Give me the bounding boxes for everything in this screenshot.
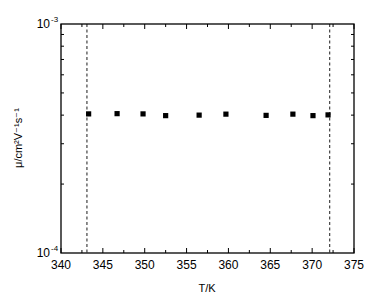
data-point-square (264, 113, 269, 118)
data-point-square (325, 112, 330, 117)
data-point-square (197, 113, 202, 118)
x-tick-label: 340 (51, 258, 71, 272)
plot-frame (61, 24, 354, 253)
data-point-square (223, 112, 228, 117)
data-point-square (114, 111, 119, 116)
y-axis-label: μ/cm²V⁻¹s⁻¹ (12, 108, 24, 168)
data-point-square (163, 113, 168, 118)
y-tick-labels: 10-410-3 (37, 15, 59, 260)
data-point-square (290, 112, 295, 117)
data-point-square (140, 111, 145, 116)
y-axis-ticks (61, 34, 354, 184)
mobility-vs-temperature-chart: 340345350355360365370375 10-410-3 T/K μ/… (0, 0, 382, 300)
x-tick-labels: 340345350355360365370375 (51, 258, 364, 272)
x-tick-label: 360 (218, 258, 238, 272)
x-tick-label: 355 (177, 258, 197, 272)
y-tick-label-exponent: -4 (51, 244, 59, 253)
plot-border (61, 24, 354, 253)
dashed-reference-lines (87, 24, 330, 253)
x-tick-label: 365 (260, 258, 280, 272)
x-tick-label: 370 (302, 258, 322, 272)
x-axis-label: T/K (198, 282, 216, 294)
x-tick-label: 350 (135, 258, 155, 272)
data-points (86, 111, 331, 118)
x-axis-ticks (61, 24, 354, 253)
y-tick-label-exponent: -3 (51, 15, 59, 24)
x-tick-label: 375 (344, 258, 364, 272)
x-tick-label: 345 (93, 258, 113, 272)
y-tick-label: 10 (37, 17, 51, 31)
data-point-square (310, 113, 315, 118)
data-point-square (86, 111, 91, 116)
y-tick-label: 10 (37, 246, 51, 260)
